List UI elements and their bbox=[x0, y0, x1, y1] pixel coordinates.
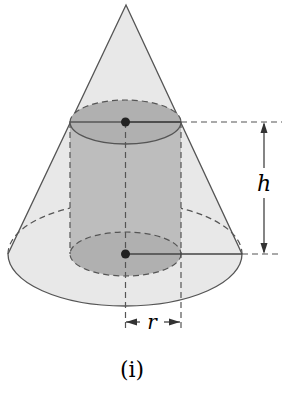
radius-label: r bbox=[147, 310, 158, 334]
top-center-dot bbox=[121, 118, 130, 127]
figure-caption: (i) bbox=[120, 357, 144, 382]
base-center-dot bbox=[121, 250, 130, 259]
cone-cylinder-diagram: h r (i) bbox=[0, 0, 293, 396]
height-label: h bbox=[257, 171, 271, 196]
